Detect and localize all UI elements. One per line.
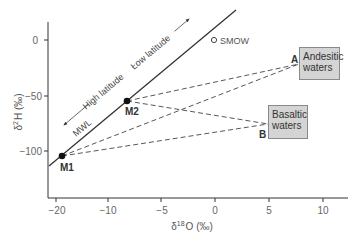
y-axis: 0 −50 −100 δ2H (‰) bbox=[12, 22, 48, 198]
m1-label: M1 bbox=[60, 162, 74, 173]
point-smow bbox=[211, 37, 216, 42]
mwl-label: MWL bbox=[71, 117, 94, 138]
y-axis-label: δ2H (‰) bbox=[12, 93, 24, 130]
basaltic-line1: Basaltic bbox=[272, 109, 304, 120]
x-tick-0: 0 bbox=[212, 205, 218, 216]
mwl-line bbox=[49, 10, 236, 166]
x-tick-neg10: −10 bbox=[100, 205, 117, 216]
y-tick-0: 0 bbox=[32, 35, 38, 46]
y-tick-neg50: −50 bbox=[25, 91, 42, 102]
andesitic-line2: waters bbox=[303, 62, 336, 73]
m2-label: M2 bbox=[125, 106, 139, 117]
andesitic-waters-box: Andesitic waters bbox=[299, 47, 340, 80]
high-latitude-label: High latitude bbox=[81, 72, 126, 112]
point-a-label: A bbox=[291, 54, 298, 65]
mixing-lines bbox=[62, 64, 299, 156]
x-axis-label: δ18O (‰) bbox=[171, 220, 213, 232]
point-m1 bbox=[59, 153, 66, 160]
smow-label: SMOW bbox=[220, 36, 250, 46]
basaltic-line2: waters bbox=[272, 120, 304, 131]
x-tick-neg20: −20 bbox=[49, 205, 66, 216]
x-tick-neg5: −5 bbox=[156, 205, 168, 216]
point-m2 bbox=[124, 98, 131, 105]
basaltic-waters-box: Basaltic waters bbox=[268, 105, 308, 139]
x-axis: −20 −10 −5 0 5 10 δ18O (‰) bbox=[48, 198, 348, 232]
point-b-label: B bbox=[259, 129, 266, 140]
andesitic-line1: Andesitic bbox=[303, 51, 336, 62]
y-tick-neg100: −100 bbox=[19, 146, 42, 157]
x-tick-10: 10 bbox=[317, 205, 329, 216]
x-tick-5: 5 bbox=[266, 205, 272, 216]
